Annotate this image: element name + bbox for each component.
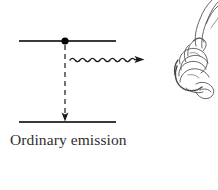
- figure-container: Ordinary emission: [0, 0, 218, 190]
- hand-sketch: [0, 0, 218, 190]
- figure-caption: Ordinary emission: [10, 131, 127, 149]
